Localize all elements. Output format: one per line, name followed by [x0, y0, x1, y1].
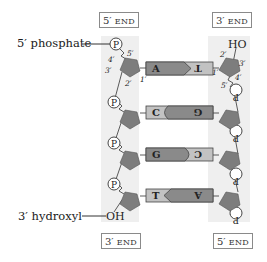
svg-text:P: P [111, 139, 117, 149]
svg-text:4′: 4′ [107, 55, 115, 64]
phosphate-icon: P [230, 84, 242, 102]
sugar-pentagon-icon [120, 110, 140, 129]
svg-text:P: P [233, 133, 239, 143]
right-ho-text: HO [228, 38, 247, 51]
base-pair-t-a: T A [140, 189, 219, 202]
svg-text:T: T [152, 190, 160, 201]
svg-text:G: G [152, 149, 161, 160]
svg-text:4′: 4′ [234, 73, 242, 82]
phosphate-icon: P [108, 137, 120, 149]
dna-diagram: P P P P 5′ 4′ 3′ 2′ 1′ OH P P P P [0, 0, 267, 262]
sugar-pentagon-icon [120, 192, 140, 211]
svg-text:A: A [194, 190, 203, 201]
phosphate-icon: P [108, 96, 120, 108]
svg-text:P: P [111, 98, 117, 108]
svg-text:P: P [233, 215, 239, 225]
base-pair-g-c: G C [140, 148, 219, 161]
svg-text:3′: 3′ [239, 59, 246, 68]
svg-text:A: A [151, 63, 160, 74]
svg-text:P: P [111, 180, 117, 190]
phosphate-icon: P [108, 178, 120, 190]
svg-text:3′: 3′ [105, 66, 112, 75]
base-pair-a-t: A T [140, 62, 219, 75]
svg-text:C: C [194, 149, 202, 160]
sugar-pentagon-icon [120, 151, 140, 170]
svg-text:2′: 2′ [124, 79, 132, 88]
svg-text:P: P [233, 92, 239, 102]
sugar-pentagon-icon [219, 151, 240, 170]
svg-text:P: P [113, 40, 119, 50]
phosphate-icon: P [110, 38, 122, 50]
svg-text:G: G [194, 107, 203, 118]
svg-text:T: T [194, 63, 202, 74]
svg-text:5′: 5′ [127, 49, 134, 58]
svg-text:5′: 5′ [221, 81, 228, 90]
svg-text:1′: 1′ [140, 75, 147, 84]
left-oh-text: OH [106, 210, 125, 223]
base-pair-c-g: C G [140, 106, 219, 119]
svg-text:2′: 2′ [219, 50, 227, 59]
phosphate-icon: P [230, 168, 242, 186]
svg-text:P: P [233, 176, 239, 186]
svg-text:C: C [152, 107, 160, 118]
sugar-pentagon-icon [120, 58, 140, 77]
